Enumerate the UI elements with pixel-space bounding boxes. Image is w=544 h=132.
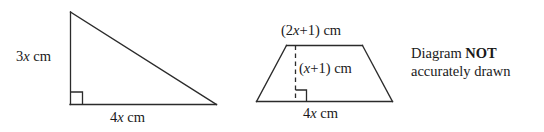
note-line-1: Diagram NOT xyxy=(411,45,510,63)
note-prefix: Diagram xyxy=(411,45,465,61)
triangle-height-unit: cm xyxy=(30,48,51,64)
note-line-2: accurately drawn xyxy=(411,63,510,81)
trapezoid-height-label: (x+1) cm xyxy=(299,60,352,77)
trapezoid-base-unit: cm xyxy=(317,105,338,121)
trapezoid-top-close: +1) cm xyxy=(300,22,342,38)
trapezoid-right-angle-icon xyxy=(296,90,307,102)
triangle-base-unit: cm xyxy=(124,109,145,125)
trapezoid-left-side xyxy=(257,46,287,102)
triangle-hypotenuse-side xyxy=(71,12,217,105)
triangle-right-angle-icon xyxy=(71,92,83,105)
trapezoid-height-close: +1) cm xyxy=(310,60,352,76)
note-emphasis: NOT xyxy=(465,45,496,61)
trapezoid-right-side xyxy=(363,46,393,102)
triangle-shape xyxy=(70,12,217,105)
trapezoid-top-label: (2x+1) cm xyxy=(281,22,341,39)
triangle-base-label: 4x cm xyxy=(110,109,145,126)
not-accurately-drawn-note: Diagram NOT accurately drawn xyxy=(411,45,510,80)
math-diagram-figure: 3x cm 4x cm (2x+1) cm (x+1) cm 4x cm Dia… xyxy=(0,0,544,132)
trapezoid-top-open: (2 xyxy=(281,22,293,38)
trapezoid-base-label: 4x cm xyxy=(303,105,338,122)
triangle-height-label: 3x cm xyxy=(16,48,51,65)
